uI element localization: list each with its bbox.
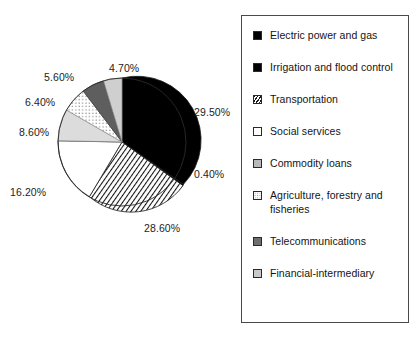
pie-label-electric-power-and-gas: 29.50% [194,106,230,118]
pie-label-financial-intermediary: 4.70% [109,62,139,74]
dotted-swatch-icon [253,191,262,200]
pie-label-commodity-loans: 8.60% [19,126,49,138]
legend-label: Commodity loans [270,157,352,171]
legend-box: Electric power and gas Irrigation and fl… [241,15,409,323]
pie-chart-area: 29.50% 0.40% 28.60% 16.20% 8.60% 6.40% 5… [0,0,240,340]
legend-item-financial-intermediary[interactable]: Financial-intermediary [253,267,402,281]
legend-item-transportation[interactable]: Transportation [253,93,402,107]
legend-item-commodity-loans[interactable]: Commodity loans [253,157,402,171]
legend-label: Financial-intermediary [270,267,374,281]
legend-label: Irrigation and flood control [270,61,393,75]
pie-label-telecommunications: 5.60% [44,71,74,83]
diagonal-hatch-swatch-icon [253,95,262,104]
legend-item-irrigation-and-flood-control[interactable]: Irrigation and flood control [253,61,402,75]
dark-gray-swatch-icon [253,237,262,246]
light-gray-swatch-icon [253,269,262,278]
legend-item-telecommunications[interactable]: Telecommunications [253,235,402,249]
legend-list: Electric power and gas Irrigation and fl… [253,29,402,299]
pie-label-social-services: 16.20% [10,186,46,198]
solid-black-swatch-icon [253,31,262,40]
pie-chart-figure: 29.50% 0.40% 28.60% 16.20% 8.60% 6.40% 5… [0,0,419,340]
legend-item-social-services[interactable]: Social services [253,125,402,139]
legend-label: Electric power and gas [270,29,377,43]
medium-gray-swatch-icon [253,159,262,168]
legend-item-electric-power-and-gas[interactable]: Electric power and gas [253,29,402,43]
legend-label: Telecommunications [270,235,366,249]
legend-label: Social services [270,125,341,139]
legend-label: Transportation [270,93,338,107]
legend-label: Agriculture, forestry and fisheries [270,189,402,216]
pie-label-agriculture-forestry-and-fisheries: 6.40% [25,96,55,108]
pie-label-transportation: 28.60% [144,222,180,234]
pie-label-irrigation-and-flood-control: 0.40% [194,168,224,180]
solid-black-swatch-icon [253,63,262,72]
white-swatch-icon [253,127,262,136]
legend-item-agriculture-forestry-and-fisheries[interactable]: Agriculture, forestry and fisheries [253,189,402,216]
